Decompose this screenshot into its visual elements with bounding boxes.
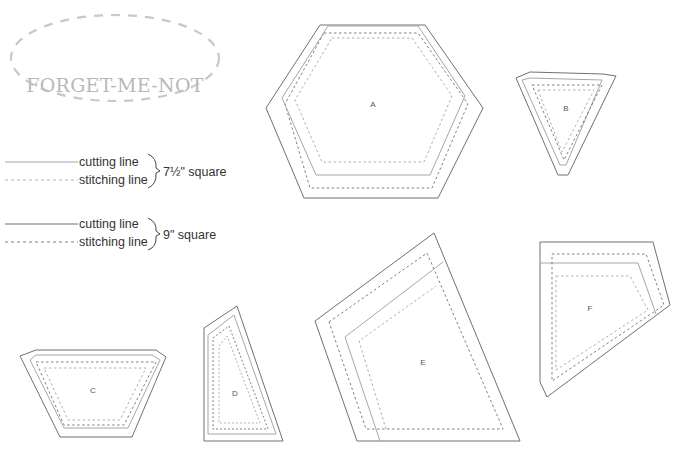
brace-icon bbox=[148, 154, 160, 188]
piece-e-label: E bbox=[420, 358, 425, 367]
template-sheet: FORGET-ME-NOT cutting line stitching lin… bbox=[0, 0, 678, 468]
piece-b-stitch-small bbox=[538, 90, 594, 152]
piece-a-label: A bbox=[370, 100, 376, 109]
piece-d-stitch-small bbox=[219, 336, 260, 423]
piece-d-stitch-large bbox=[213, 326, 268, 429]
piece-f-cut-small bbox=[540, 263, 656, 314]
legend-cutting-label: cutting line bbox=[79, 155, 139, 169]
legend-small-square: cutting line stitching line 7½" square bbox=[5, 154, 227, 188]
piece-e: E bbox=[315, 233, 520, 441]
legend-large-square: cutting line stitching line 9" square bbox=[5, 217, 216, 250]
forget-me-not-logo: FORGET-ME-NOT bbox=[11, 15, 219, 101]
legend-stitching-label: stitching line bbox=[79, 173, 148, 187]
piece-a-stitch-large bbox=[285, 33, 468, 188]
piece-a-cut-large bbox=[266, 25, 483, 198]
legend-size-label: 7½" square bbox=[163, 165, 227, 179]
piece-d-cut-small bbox=[208, 315, 276, 434]
piece-b-cut-large bbox=[516, 72, 616, 175]
piece-f: F bbox=[540, 242, 670, 397]
piece-e-cut-small bbox=[345, 262, 443, 441]
piece-f-label: F bbox=[588, 304, 593, 313]
piece-b-stitch-large bbox=[532, 85, 602, 160]
piece-d-label: D bbox=[232, 389, 238, 398]
legend-cutting-label: cutting line bbox=[79, 217, 139, 231]
piece-c-label: C bbox=[90, 386, 96, 395]
piece-b-label: B bbox=[563, 104, 568, 113]
piece-a: A bbox=[266, 25, 483, 198]
brace-icon bbox=[148, 218, 160, 250]
piece-c-stitch-large bbox=[36, 362, 156, 425]
piece-b: B bbox=[516, 72, 616, 175]
legend-stitching-label: stitching line bbox=[79, 235, 148, 249]
logo-text: FORGET-ME-NOT bbox=[26, 74, 204, 96]
legend-size-label: 9" square bbox=[163, 228, 216, 242]
piece-c: C bbox=[20, 350, 166, 437]
piece-d: D bbox=[204, 306, 283, 441]
piece-e-stitch-large bbox=[329, 253, 503, 429]
